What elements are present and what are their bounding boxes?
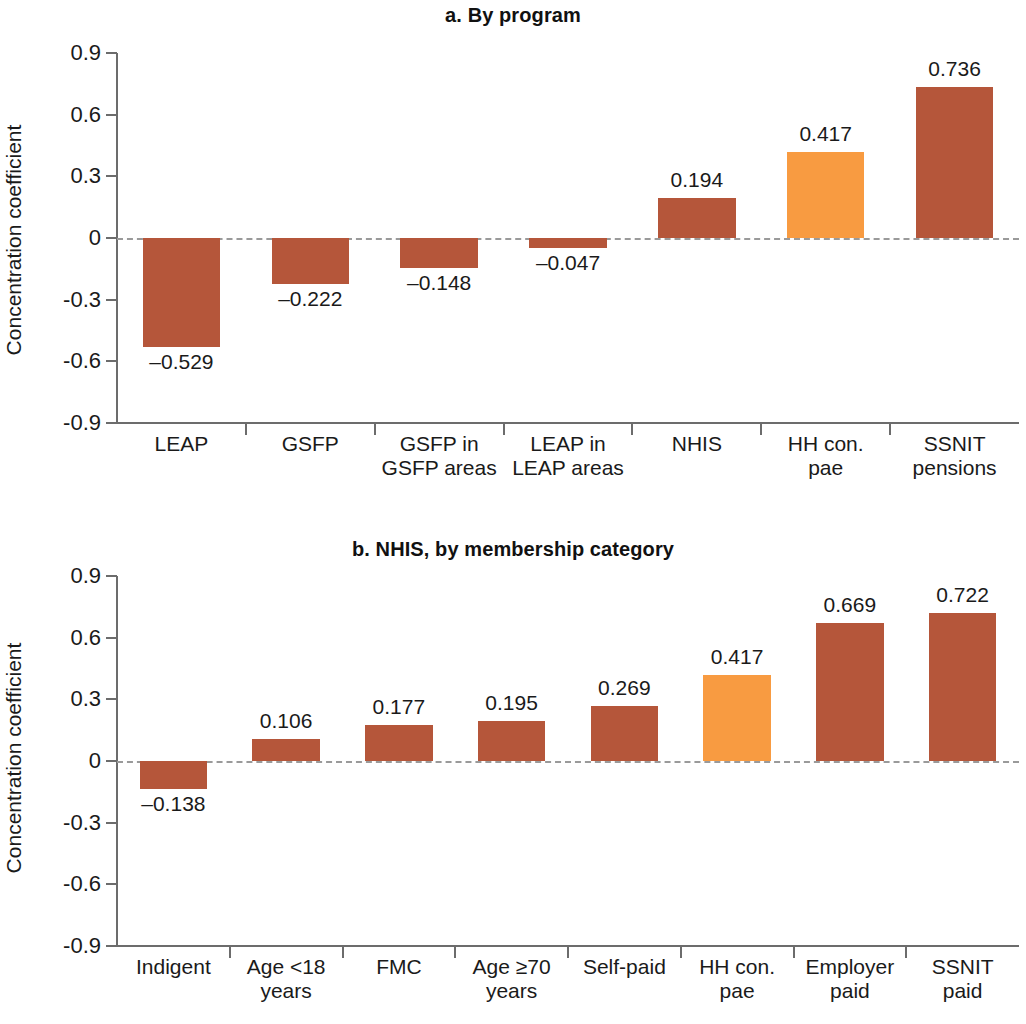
bar-b-2[interactable] [365,725,433,761]
category-label-a-4: NHIS [672,432,722,456]
bar-a-0[interactable] [143,238,220,347]
bar-b-1[interactable] [252,739,320,761]
category-label-a-1: GSFP [282,432,339,456]
value-label-a-3: –0.047 [536,251,600,275]
category-label-b-1: Age <18 years [247,955,326,1002]
category-label-a-2: GSFP in GSFP areas [382,432,497,479]
b-zero-line [117,761,1019,763]
value-label-a-0: –0.529 [149,350,213,374]
category-label-a-5: HH con. pae [788,432,864,479]
value-label-b-7: 0.722 [936,583,989,607]
bar-b-3[interactable] [478,721,546,761]
value-label-a-5: 0.417 [799,122,852,146]
b-y-tick-label: 0.3 [21,686,101,712]
category-label-b-2: FMC [376,955,422,979]
chart-b-title: b. NHIS, by membership category [0,538,1026,561]
chart-a-plot-area: 0.90.60.30-0.3-0.6-0.9–0.529–0.222–0.148… [117,53,1019,423]
a-x-axis-divider [374,423,376,435]
value-label-b-0: –0.138 [141,792,205,816]
bar-a-4[interactable] [658,198,735,238]
a-x-axis-divider [889,423,891,435]
chart-a-x-axis-line [116,422,1019,424]
category-label-a-0: LEAP [155,432,209,456]
b-y-tick-label: 0.9 [21,563,101,589]
bar-a-6[interactable] [916,87,993,238]
a-y-tick-label: 0.3 [21,163,101,189]
category-label-a-6: SSNIT pensions [913,432,997,479]
b-x-axis-divider [342,946,344,958]
b-y-tick [106,698,117,700]
chart-a-title: a. By program [0,4,1026,27]
chart-panel-b: b. NHIS, by membership category Concentr… [0,534,1026,1024]
value-label-a-6: 0.736 [928,57,981,81]
bar-a-3[interactable] [529,238,606,248]
bar-b-4[interactable] [591,706,659,761]
b-x-axis-divider [680,946,682,958]
bar-b-6[interactable] [816,623,884,761]
a-y-tick-label: 0 [21,225,101,251]
a-x-axis-divider [631,423,633,435]
b-y-tick [106,945,117,947]
bar-b-5[interactable] [703,675,771,761]
category-label-b-4: Self-paid [583,955,666,979]
a-y-tick-label: 0.9 [21,40,101,66]
b-y-tick-label: 0 [21,748,101,774]
category-label-b-6: Employer paid [806,955,895,1002]
a-y-tick [106,360,117,362]
a-y-tick-label: -0.3 [21,287,101,313]
bar-b-0[interactable] [140,761,208,789]
b-x-axis-divider [229,946,231,958]
b-y-tick [106,760,117,762]
b-y-tick [106,637,117,639]
value-label-b-1: 0.106 [260,709,313,733]
b-y-tick-label: 0.6 [21,625,101,651]
value-label-b-3: 0.195 [485,691,538,715]
a-x-axis-divider [503,423,505,435]
b-y-tick [106,883,117,885]
category-label-b-0: Indigent [136,955,211,979]
value-label-a-4: 0.194 [671,168,724,192]
b-y-tick-label: -0.6 [21,871,101,897]
a-x-axis-divider [245,423,247,435]
bar-b-7[interactable] [929,613,997,761]
value-label-a-1: –0.222 [278,287,342,311]
a-y-tick-label: 0.6 [21,102,101,128]
figure-root: a. By program Concentration coefficient … [0,0,1026,1024]
b-y-tick-label: -0.3 [21,810,101,836]
value-label-b-2: 0.177 [373,695,426,719]
b-x-axis-divider [567,946,569,958]
b-x-axis-divider [905,946,907,958]
a-y-tick [106,422,117,424]
bar-a-1[interactable] [272,238,349,284]
a-y-tick-label: -0.9 [21,410,101,436]
a-y-tick [106,237,117,239]
a-y-tick [106,52,117,54]
bar-a-5[interactable] [787,152,864,238]
a-y-tick [106,175,117,177]
chart-b-plot-area: 0.90.60.30-0.3-0.6-0.9–0.1380.1060.1770.… [117,576,1019,946]
value-label-b-4: 0.269 [598,676,651,700]
category-label-a-3: LEAP in LEAP areas [512,432,624,479]
a-y-tick [106,299,117,301]
b-x-axis-divider [793,946,795,958]
b-x-axis-divider [454,946,456,958]
b-y-tick-label: -0.9 [21,933,101,959]
category-label-b-3: Age ≥70 years [473,955,551,1002]
category-label-b-5: HH con. pae [699,955,775,1002]
a-y-tick-label: -0.6 [21,348,101,374]
b-y-tick [106,822,117,824]
a-x-axis-divider [760,423,762,435]
b-y-tick [106,575,117,577]
value-label-b-6: 0.669 [824,593,877,617]
chart-panel-a: a. By program Concentration coefficient … [0,0,1026,512]
bar-a-2[interactable] [400,238,477,268]
category-label-b-7: SSNIT paid [932,955,994,1002]
a-y-tick [106,114,117,116]
value-label-b-5: 0.417 [711,645,764,669]
value-label-a-2: –0.148 [407,271,471,295]
